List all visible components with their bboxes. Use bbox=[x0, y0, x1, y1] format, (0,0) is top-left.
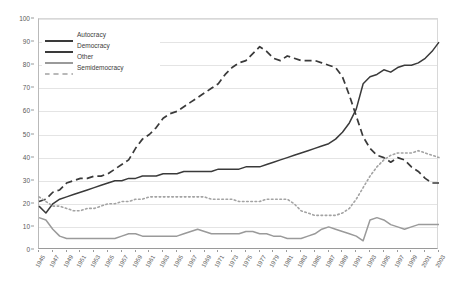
x-axis-tick-label: 1949 bbox=[62, 254, 74, 269]
x-axis-tick-label: 1969 bbox=[200, 254, 212, 269]
x-axis-tick-mark bbox=[217, 250, 218, 252]
y-axis-tick-mark bbox=[31, 202, 34, 203]
x-axis-tick-mark bbox=[438, 250, 439, 252]
legend-label: Autocracy bbox=[77, 31, 106, 39]
x-axis-tick-mark bbox=[355, 250, 356, 252]
line-chart: 0102030405060708090100 AutocracyDemocrac… bbox=[0, 0, 453, 287]
legend-label: Other bbox=[77, 53, 93, 61]
x-axis-tick-label: 2001 bbox=[421, 254, 433, 269]
x-axis-tick-label: 1997 bbox=[393, 254, 405, 269]
y-axis-tick-label: 20 bbox=[23, 199, 30, 206]
x-axis-tick-label: 1999 bbox=[407, 254, 419, 269]
x-axis-tick-label: 1977 bbox=[255, 254, 267, 269]
legend: AutocracyDemocracyOtherSemidemocracy bbox=[42, 27, 160, 76]
x-axis-tick-mark bbox=[397, 250, 398, 252]
x-axis-tick-mark bbox=[107, 250, 108, 252]
x-axis-tick-mark bbox=[300, 250, 301, 252]
legend-item-democracy[interactable]: Democracy bbox=[45, 40, 157, 51]
x-axis-tick-mark bbox=[38, 250, 39, 252]
y-axis-tick-label: 100 bbox=[19, 15, 30, 22]
y-axis-tick-mark bbox=[31, 64, 34, 65]
x-axis-tick-label: 1995 bbox=[379, 254, 391, 269]
x-axis-tick-mark bbox=[314, 250, 315, 252]
x-axis-tick-mark bbox=[328, 250, 329, 252]
x-axis-tick-label: 1981 bbox=[283, 254, 295, 269]
y-axis: 0102030405060708090100 bbox=[0, 18, 34, 249]
x-axis-tick-mark bbox=[176, 250, 177, 252]
legend-item-other[interactable]: Other bbox=[45, 51, 157, 62]
x-axis-tick-mark bbox=[341, 250, 342, 252]
x-axis-tick-mark bbox=[383, 250, 384, 252]
x-axis-tick-mark bbox=[52, 250, 53, 252]
x-axis-tick-label: 1983 bbox=[296, 254, 308, 269]
legend-swatch-icon bbox=[45, 31, 73, 39]
x-axis-tick-mark bbox=[162, 250, 163, 252]
y-axis-tick-label: 90 bbox=[23, 38, 30, 45]
x-axis-tick-label: 1971 bbox=[214, 254, 226, 269]
x-axis-tick-label: 1961 bbox=[145, 254, 157, 269]
x-axis-tick-mark bbox=[148, 250, 149, 252]
x-axis-tick-mark bbox=[93, 250, 94, 252]
x-axis-tick-label: 1979 bbox=[269, 254, 281, 269]
y-axis-tick-label: 60 bbox=[23, 107, 30, 114]
y-axis-tick-mark bbox=[31, 156, 34, 157]
y-axis-tick-label: 50 bbox=[23, 130, 30, 137]
x-axis-tick-label: 1991 bbox=[352, 254, 364, 269]
y-axis-tick-label: 10 bbox=[23, 222, 30, 229]
legend-swatch-icon bbox=[45, 64, 73, 72]
y-axis-tick-label: 80 bbox=[23, 61, 30, 68]
x-axis-tick-mark bbox=[121, 250, 122, 252]
legend-label: Semidemocracy bbox=[77, 64, 124, 72]
series-line-semidemocracy bbox=[39, 151, 439, 216]
x-axis-tick-label: 1951 bbox=[76, 254, 88, 269]
legend-item-semidemocracy[interactable]: Semidemocracy bbox=[45, 62, 157, 73]
x-axis-tick-mark bbox=[135, 250, 136, 252]
legend-swatch-icon bbox=[45, 53, 73, 61]
x-axis-tick-label: 1953 bbox=[89, 254, 101, 269]
y-axis-tick-mark bbox=[31, 41, 34, 42]
x-axis-tick-label: 1989 bbox=[338, 254, 350, 269]
y-axis-tick-mark bbox=[31, 18, 34, 19]
x-axis-tick-mark bbox=[231, 250, 232, 252]
x-axis-tick-label: 2003 bbox=[434, 254, 446, 269]
y-axis-tick-mark bbox=[31, 133, 34, 134]
x-axis-tick-label: 1967 bbox=[186, 254, 198, 269]
legend-item-autocracy[interactable]: Autocracy bbox=[45, 29, 157, 40]
y-axis-tick-label: 30 bbox=[23, 176, 30, 183]
x-axis-tick-mark bbox=[272, 250, 273, 252]
x-axis-tick-label: 1945 bbox=[34, 254, 46, 269]
y-axis-tick-label: 0 bbox=[26, 246, 30, 253]
x-axis: 1945194719491951195319551957195919611963… bbox=[38, 250, 438, 287]
x-axis-tick-label: 1963 bbox=[158, 254, 170, 269]
x-axis-tick-label: 1973 bbox=[227, 254, 239, 269]
x-axis-tick-mark bbox=[424, 250, 425, 252]
series-line-other bbox=[39, 218, 439, 241]
y-axis-tick-mark bbox=[31, 179, 34, 180]
x-axis-tick-mark bbox=[204, 250, 205, 252]
legend-label: Democracy bbox=[77, 42, 110, 50]
y-axis-tick-mark bbox=[31, 87, 34, 88]
y-axis-tick-label: 70 bbox=[23, 84, 30, 91]
y-axis-tick-mark bbox=[31, 249, 34, 250]
x-axis-tick-mark bbox=[79, 250, 80, 252]
y-axis-tick-mark bbox=[31, 110, 34, 111]
x-axis-tick-mark bbox=[245, 250, 246, 252]
x-axis-tick-label: 1987 bbox=[324, 254, 336, 269]
x-axis-tick-label: 1955 bbox=[103, 254, 115, 269]
x-axis-tick-mark bbox=[190, 250, 191, 252]
x-axis-tick-mark bbox=[286, 250, 287, 252]
x-axis-tick-label: 1947 bbox=[48, 254, 60, 269]
legend-swatch-icon bbox=[45, 42, 73, 50]
x-axis-tick-label: 1957 bbox=[117, 254, 129, 269]
y-axis-tick-mark bbox=[31, 225, 34, 226]
x-axis-tick-mark bbox=[66, 250, 67, 252]
y-axis-tick-label: 40 bbox=[23, 153, 30, 160]
x-axis-tick-label: 1993 bbox=[365, 254, 377, 269]
x-axis-tick-label: 1959 bbox=[131, 254, 143, 269]
x-axis-tick-label: 1975 bbox=[241, 254, 253, 269]
x-axis-tick-label: 1965 bbox=[172, 254, 184, 269]
x-axis-tick-mark bbox=[410, 250, 411, 252]
x-axis-tick-label: 1985 bbox=[310, 254, 322, 269]
x-axis-tick-mark bbox=[259, 250, 260, 252]
x-axis-tick-mark bbox=[369, 250, 370, 252]
